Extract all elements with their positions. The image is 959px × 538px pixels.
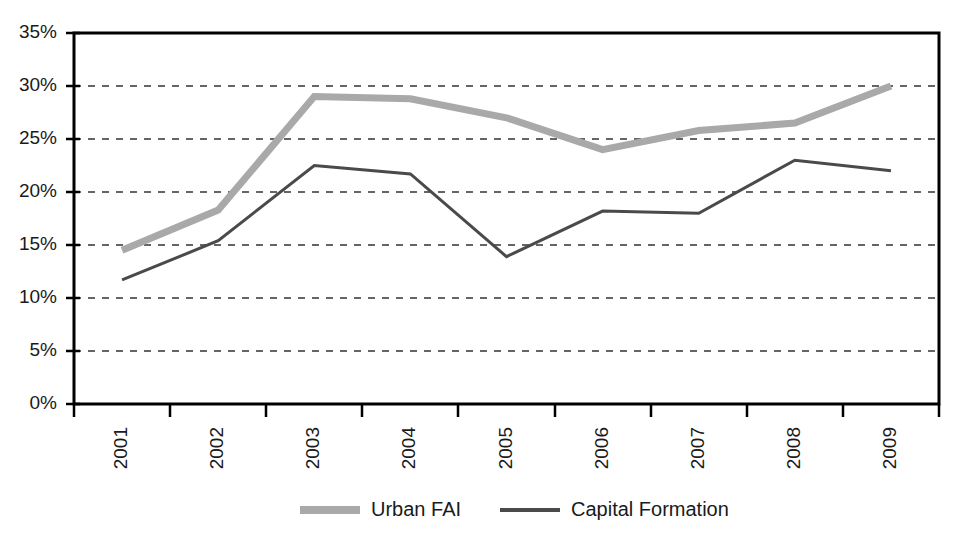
chart-legend: Urban FAI Capital Formation	[300, 498, 729, 520]
x-axis-ticks	[74, 404, 939, 417]
legend-label-capital-formation: Capital Formation	[571, 498, 729, 520]
x-axis-tick-labels: 200120022003200420052006200720082009	[110, 427, 900, 470]
y-axis-label-5: 5%	[30, 339, 58, 360]
x-axis-label-2006: 2006	[591, 427, 612, 469]
y-axis-label-0: 0%	[30, 392, 58, 413]
legend-label-urban-fai: Urban FAI	[371, 498, 461, 520]
y-axis-label-20: 20%	[19, 180, 57, 201]
y-axis-label-35: 35%	[19, 21, 57, 42]
series-line-capital-formation	[122, 160, 891, 280]
y-axis-label-10: 10%	[19, 286, 57, 307]
x-axis-label-2004: 2004	[398, 427, 419, 470]
x-axis-label-2001: 2001	[110, 427, 131, 469]
x-axis-label-2008: 2008	[783, 427, 804, 469]
x-axis-label-2007: 2007	[687, 427, 708, 469]
y-axis-label-25: 25%	[19, 127, 57, 148]
chart-canvas: 35% 30% 25% 20% 15% 10% 5% 0%	[0, 0, 959, 538]
x-axis-label-2003: 2003	[302, 427, 323, 469]
data-series-group	[122, 86, 891, 280]
line-chart-figure: 35% 30% 25% 20% 15% 10% 5% 0%	[0, 0, 959, 538]
x-axis-label-2002: 2002	[206, 427, 227, 469]
y-axis-label-30: 30%	[19, 74, 57, 95]
x-axis-label-2009: 2009	[879, 427, 900, 469]
x-axis-label-2005: 2005	[495, 427, 516, 469]
y-axis-label-15: 15%	[19, 233, 57, 254]
y-axis-tick-labels: 35% 30% 25% 20% 15% 10% 5% 0%	[19, 21, 57, 413]
